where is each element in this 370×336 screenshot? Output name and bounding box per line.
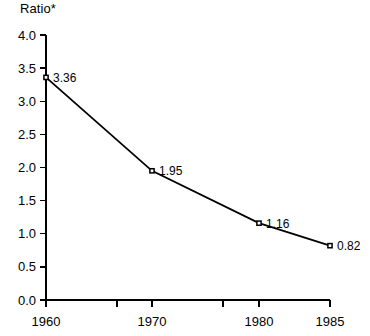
y-tick-label: 1.5: [18, 193, 36, 208]
x-tick-label: 1960: [32, 314, 61, 329]
data-point-marker: [44, 75, 48, 79]
y-tick-label: 3.5: [18, 61, 36, 76]
data-point-labels: 3.361.951.160.82: [53, 71, 361, 253]
chart-plot-area: 0.00.51.01.52.02.53.03.54.0 196019701980…: [0, 0, 370, 336]
y-tick-label: 2.5: [18, 127, 36, 142]
y-tick-label: 0.0: [18, 293, 36, 308]
data-point-label: 1.95: [159, 164, 183, 178]
y-tick-label: 0.5: [18, 259, 36, 274]
y-tick-label: 3.0: [18, 94, 36, 109]
x-axis-tick-marks: [46, 300, 330, 307]
data-point-label: 3.36: [53, 71, 77, 85]
y-tick-label: 2.0: [18, 160, 36, 175]
x-tick-label: 1980: [245, 314, 274, 329]
x-tick-label: 1985: [316, 314, 345, 329]
data-point-label: 0.82: [337, 239, 361, 253]
data-point-marker: [150, 169, 154, 173]
data-point-label: 1.16: [266, 217, 290, 231]
x-tick-label: 1970: [138, 314, 167, 329]
line-chart: Ratio* 0.00.51.01.52.02.53.03.54.0 19601…: [0, 0, 370, 336]
y-tick-label: 4.0: [18, 28, 36, 43]
y-axis-tick-labels: 0.00.51.01.52.02.53.03.54.0: [18, 28, 36, 308]
data-point-marker: [328, 244, 332, 248]
x-axis-tick-labels: 1960197019801985: [32, 314, 345, 329]
data-point-marker: [257, 221, 261, 225]
y-tick-label: 1.0: [18, 226, 36, 241]
